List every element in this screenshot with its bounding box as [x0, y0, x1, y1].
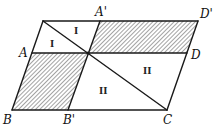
hatched-region-lower-left [12, 53, 88, 110]
region-numeral-I-lower: I [50, 39, 54, 49]
label-A-prime: A' [94, 5, 107, 19]
label-D-prime: D' [199, 7, 213, 21]
label-B: B [2, 113, 12, 127]
label-D: D [190, 48, 201, 62]
parallelogram-diagram: A' D' A D B B' C I I II II [0, 0, 215, 135]
intersection-point [86, 51, 89, 54]
label-C: C [163, 113, 172, 127]
label-B-prime: B' [62, 113, 75, 127]
region-numeral-I-upper: I [74, 26, 78, 36]
hatched-region-upper-right [88, 21, 198, 53]
region-numeral-II-lower: II [99, 86, 107, 96]
label-A: A [18, 46, 28, 60]
region-numeral-II-upper: II [143, 66, 151, 76]
